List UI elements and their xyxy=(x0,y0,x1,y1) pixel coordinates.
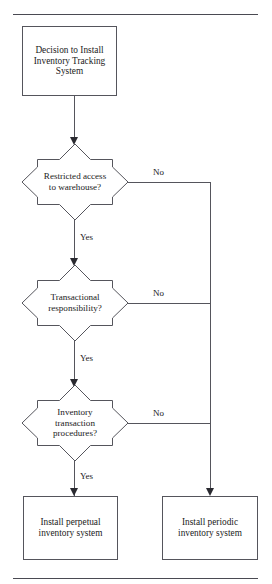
edge-label-decision-2-yes: Yes xyxy=(80,354,93,363)
decision-transactional-responsibility: Transactional responsibility? xyxy=(22,265,128,341)
terminal-perpetual: Install perpetual inventory system xyxy=(23,496,118,560)
flowchart-page: Decision to Install Inventory Tracking S… xyxy=(0,0,272,584)
terminal-perpetual-line-1: Install perpetual xyxy=(40,517,100,527)
terminal-periodic-text: Install periodic inventory system xyxy=(178,517,242,539)
terminal-periodic: Install periodic inventory system xyxy=(162,496,258,560)
arrowhead-decision-3-yes xyxy=(70,488,78,496)
edge-label-decision-3-yes: Yes xyxy=(80,472,93,481)
edge-label-decision-2-no: No xyxy=(153,289,164,298)
start-box-text: Decision to Install Inventory Tracking S… xyxy=(34,45,106,78)
top-separator-rule xyxy=(13,14,258,15)
start-box-line-3: System xyxy=(56,66,83,76)
connector-decision-1-no xyxy=(128,182,211,183)
connector-decision-2-yes xyxy=(74,341,75,381)
terminal-periodic-line-2: inventory system xyxy=(178,528,242,538)
terminal-periodic-line-1: Install periodic xyxy=(182,517,238,527)
connector-decision-2-no xyxy=(128,303,211,304)
connector-start-to-decision-1 xyxy=(74,96,75,138)
terminal-perpetual-line-2: inventory system xyxy=(39,528,103,538)
terminal-perpetual-text: Install perpetual inventory system xyxy=(39,517,103,539)
arrowhead-no-trunk-to-periodic xyxy=(206,488,214,496)
start-box-line-2: Inventory Tracking xyxy=(34,56,106,66)
decision-inventory-transaction-procedures: Inventory transaction procedures? xyxy=(22,385,128,461)
edge-label-decision-3-no: No xyxy=(153,409,164,418)
connector-no-trunk xyxy=(210,182,211,490)
start-box: Decision to Install Inventory Tracking S… xyxy=(22,26,117,96)
decision-restricted-access: Restricted access to warehouse? xyxy=(22,144,128,220)
bottom-separator-rule xyxy=(13,578,258,579)
edge-label-decision-1-yes: Yes xyxy=(80,233,93,242)
edge-label-decision-1-no: No xyxy=(153,168,164,177)
connector-decision-1-yes xyxy=(74,220,75,260)
start-box-line-1: Decision to Install xyxy=(35,45,103,55)
connector-decision-3-no xyxy=(128,423,211,424)
